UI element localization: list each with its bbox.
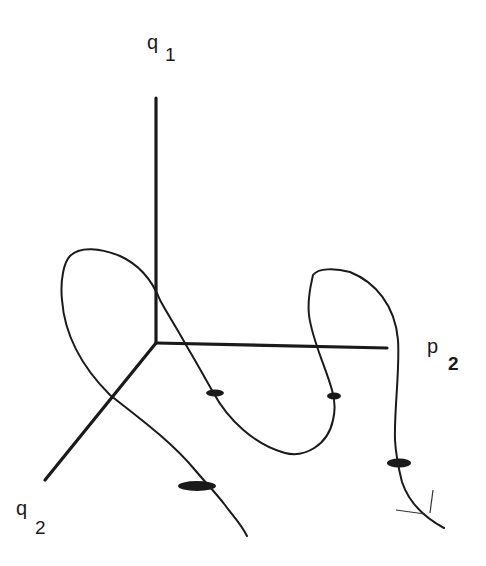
q2-axis [45,343,156,480]
q2-label-subscript: 2 [35,518,46,537]
p2-axis [156,343,387,348]
marker-3 [178,481,216,491]
marker-2 [327,393,341,400]
q1-label-subscript: 1 [165,45,176,64]
trajectory-curve [61,249,444,536]
end-tick-marks [396,490,433,514]
marker-4 [387,459,411,468]
phase-space-diagram [0,0,486,566]
q1-label-symbol: q [147,32,158,52]
p2-label-subscript: 2 [448,354,459,373]
axes [45,98,387,480]
trajectory-markers [178,390,411,492]
p2-label-symbol: p [427,336,438,356]
marker-1 [206,390,224,397]
q2-label-symbol: q [16,498,27,518]
